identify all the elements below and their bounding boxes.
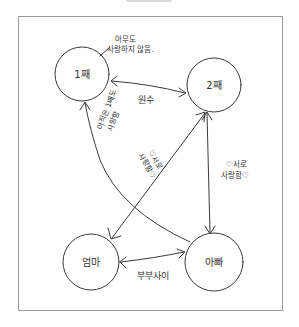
edge-dad-first: 아직은 1째도 사랑함 bbox=[80, 88, 190, 242]
arrowhead-icon bbox=[108, 228, 121, 239]
edge-mom-dad: 부부사이 bbox=[120, 249, 185, 281]
node-second-child: 2째 bbox=[187, 58, 241, 112]
node-label-first-child: 1째 bbox=[74, 69, 89, 80]
edge-line bbox=[207, 113, 210, 233]
edge-second-dad: ♡서로 사랑함♡ bbox=[202, 112, 249, 234]
right-love-line1: ♡서로 bbox=[226, 160, 247, 169]
edge-label-couple: 부부사이 bbox=[137, 271, 169, 281]
edge-line bbox=[112, 81, 185, 93]
edge-mom-second: ♡서로 사랑함♡ bbox=[108, 112, 205, 239]
right-love-line2: 사랑함♡ bbox=[221, 171, 249, 180]
node-label-mom: 엄마 bbox=[82, 257, 100, 268]
node-label-second-child: 2째 bbox=[206, 80, 221, 91]
arrowhead-icon bbox=[120, 257, 126, 268]
first-child-note-line2: 사랑하지 않음. bbox=[107, 44, 154, 54]
edge-line bbox=[112, 113, 205, 238]
edge-line bbox=[121, 252, 184, 262]
relationship-diagram: 1째 2째 엄마 아빠 아무도 사랑하지 않음. 원수 아직은 1째도 사랑함 … bbox=[0, 0, 299, 327]
edge-label-enemy: 원수 bbox=[138, 95, 154, 105]
edge-first-second: 원수 bbox=[111, 76, 186, 105]
node-label-dad: 아빠 bbox=[205, 257, 223, 268]
node-dad: 아빠 bbox=[185, 233, 243, 291]
first-child-note-line1: 아무도 bbox=[115, 34, 136, 44]
node-mom: 엄마 bbox=[63, 234, 119, 290]
